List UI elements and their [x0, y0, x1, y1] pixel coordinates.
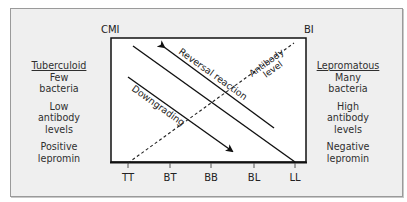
cmi-label: CMI — [101, 24, 120, 35]
tick-label-bl: BL — [248, 172, 261, 183]
tick-label-bt: BT — [164, 172, 178, 183]
tick-label-ll: LL — [289, 172, 301, 183]
spectrum-diagram: TT BT BB BL LL CMI BI Reversal reaction … — [0, 0, 407, 202]
tick-label-bb: BB — [204, 172, 218, 183]
bi-label: BI — [304, 24, 314, 35]
tick-label-tt: TT — [121, 172, 135, 183]
